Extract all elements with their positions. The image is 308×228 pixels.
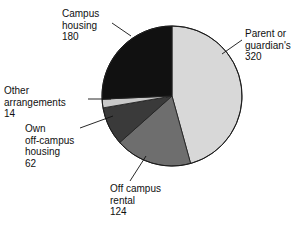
pie-label-other-arrangements: Other arrangements 14 [4,85,86,120]
leader-line-parent-guardian [222,40,242,54]
leader-line-off-campus-rental [130,156,146,181]
pie-label-campus-housing: Campus housing 180 [62,8,122,43]
pie-slices [102,26,242,166]
pie-label-parent-guardian: Parent or guardian's 320 [245,28,307,63]
pie-label-own-off-campus-housing: Own off-campus housing 62 [25,123,87,169]
pie-chart: Campus housing 180 Parent or guardian's … [0,0,308,228]
pie-label-off-campus-rental: Off campus rental 124 [110,183,180,218]
